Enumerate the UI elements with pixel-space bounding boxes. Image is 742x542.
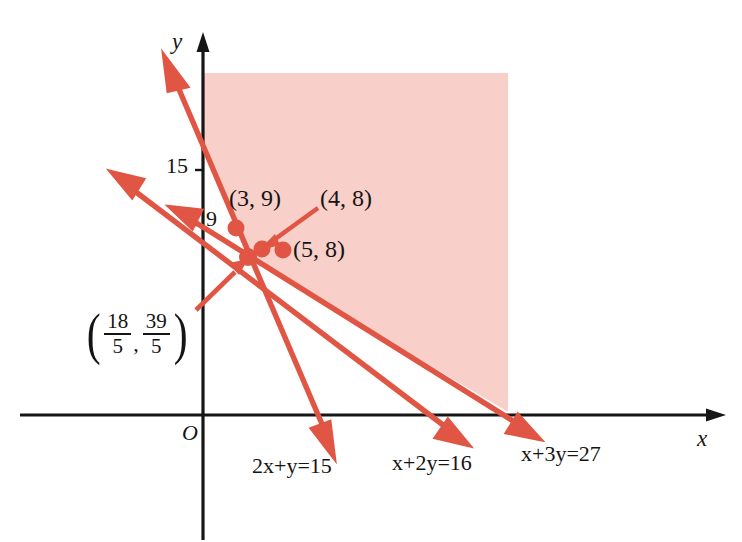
y-axis-arrowhead — [197, 32, 210, 52]
fraction-comma: , — [132, 333, 142, 358]
close-paren: ) — [174, 310, 188, 358]
y-tick-label-15: 15 — [166, 155, 188, 177]
line-2x-plus-y-15-arrow-end — [313, 423, 333, 455]
point-label-4-8: (4, 8) — [320, 186, 372, 210]
fraction-x: 18 5 — [104, 311, 131, 357]
x-axis-label: x — [697, 427, 707, 450]
x-axis-arrowhead — [706, 409, 726, 422]
y-axis-label: y — [172, 30, 182, 53]
fraction-x-denominator: 5 — [110, 335, 127, 357]
point-label-5-8: (5, 8) — [293, 237, 345, 261]
equation-label-2x-plus-y-15: 2x+y=15 — [252, 455, 332, 477]
point-5-8 — [275, 242, 292, 259]
linear-programming-graph — [0, 0, 742, 542]
fraction-x-numerator: 18 — [104, 311, 131, 333]
fraction-y: 39 5 — [143, 311, 170, 357]
origin-label: O — [182, 422, 198, 444]
equation-label-x-plus-3y-27: x+3y=27 — [521, 443, 601, 465]
fraction-y-numerator: 39 — [143, 311, 170, 333]
fraction-y-denominator: 5 — [148, 335, 165, 357]
point-3-9 — [228, 220, 245, 237]
fraction-point-label: ( 18 5 , 39 5 ) — [84, 310, 190, 358]
equation-label-x-plus-2y-16: x+2y=16 — [392, 452, 472, 474]
open-paren: ( — [87, 310, 101, 358]
point-label-3-9: (3, 9) — [229, 186, 281, 210]
y-tick-label-9: 9 — [206, 208, 217, 230]
point-4-8 — [254, 241, 271, 258]
